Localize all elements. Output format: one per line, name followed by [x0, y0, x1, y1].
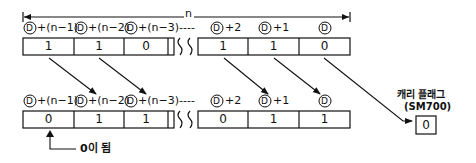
device-symbol: D: [77, 95, 84, 107]
zero-fill-note: 0이 됨: [80, 143, 111, 155]
bottom-label-3: +2: [225, 95, 241, 107]
bottom-label-2: +(n−3)----: [138, 95, 195, 107]
zero-fill-arrow: [46, 130, 76, 149]
bottom-label-4: +1: [273, 95, 289, 107]
bottom-label-1: +(n−2): [88, 95, 129, 107]
after-cell-3: 0: [198, 111, 248, 128]
before-cell-3: 1: [198, 38, 248, 55]
before-cell-1: 1: [74, 38, 124, 55]
device-symbol: D: [127, 95, 134, 107]
before-cell-0: 1: [23, 38, 74, 55]
device-symbol: D: [213, 22, 220, 34]
device-symbol: D: [26, 22, 33, 34]
device-symbol: D: [213, 95, 220, 107]
after-cell-5: 1: [299, 111, 350, 128]
device-symbol: D: [77, 22, 84, 34]
device-symbol: D: [261, 22, 268, 34]
device-symbol: D: [127, 22, 134, 34]
before-cell-5: 0: [299, 38, 350, 55]
device-symbol: D: [321, 95, 328, 107]
carry-flag-title: 캐리 플래그: [397, 89, 445, 101]
arrow-right-icon: [342, 14, 349, 20]
before-cell-2: 0: [124, 38, 168, 55]
after-cell-4: 1: [248, 111, 299, 128]
device-symbol: D: [321, 22, 328, 34]
span-label: n: [185, 8, 192, 20]
top-label-2: +(n−3)----: [138, 22, 195, 34]
before-cell-4: 1: [248, 38, 299, 55]
device-symbol: D: [261, 95, 268, 107]
top-label-0: +(n−1): [37, 22, 78, 34]
top-label-3: +2: [225, 22, 241, 34]
carry-flag-device: (SM700): [404, 101, 451, 113]
top-label-4: +1: [273, 22, 289, 34]
bottom-label-0: +(n−1): [37, 95, 78, 107]
after-cell-1: 1: [74, 111, 124, 128]
after-cell-0: 0: [23, 111, 74, 128]
top-label-1: +(n−2): [88, 22, 129, 34]
arrow-left-icon: [24, 14, 31, 20]
device-symbol: D: [26, 95, 33, 107]
carry-flag-value: 0: [416, 116, 436, 134]
after-cell-2: 1: [124, 111, 168, 128]
